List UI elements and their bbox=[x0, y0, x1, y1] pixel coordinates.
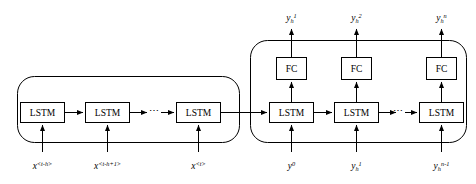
decoder-fc-label-1: FC bbox=[286, 64, 298, 74]
decoder-input-superscript-3: n-1 bbox=[441, 160, 449, 167]
decoder-fc-label-2: FC bbox=[351, 64, 363, 74]
decoder-input-label-1: y0 bbox=[288, 161, 295, 172]
encoder-input-superscript-3: <t> bbox=[195, 160, 205, 167]
decoder-ellipsis: ⋯ bbox=[393, 107, 404, 117]
decoder-lstm-label-2: LSTM bbox=[344, 108, 370, 118]
decoder-output-label-2: yh2 bbox=[351, 13, 362, 24]
decoder-input-label-3: yhn-1 bbox=[434, 161, 450, 172]
decoder-input-superscript-1: 0 bbox=[292, 160, 295, 167]
encoder-lstm-label-1: LSTM bbox=[30, 108, 56, 118]
decoder-container bbox=[251, 41, 467, 143]
encoder-input-superscript-2: <t-h+1> bbox=[98, 160, 121, 167]
diagram-canvas: LSTM LSTM LSTM LSTM LSTM LSTM FC FC FC bbox=[0, 0, 476, 184]
decoder-output-label-1: yh1 bbox=[286, 13, 297, 24]
decoder-fc-label-3: FC bbox=[436, 64, 448, 74]
encoder-lstm-label-3: LSTM bbox=[186, 108, 212, 118]
decoder-output-superscript-2: 2 bbox=[359, 12, 362, 19]
encoder-input-label-2: x<t-h+1> bbox=[94, 161, 121, 172]
decoder-input-label-2: yh1 bbox=[351, 161, 362, 172]
decoder-lstm-label-1: LSTM bbox=[279, 108, 305, 118]
decoder-output-superscript-1: 1 bbox=[294, 12, 297, 19]
decoder-input-superscript-2: 1 bbox=[359, 160, 362, 167]
encoder-ellipsis: ⋯ bbox=[149, 107, 160, 117]
decoder-output-superscript-3: n bbox=[444, 12, 447, 19]
decoder-output-label-3: yhn bbox=[436, 13, 447, 24]
lstm-encoder-decoder-diagram: LSTM LSTM LSTM LSTM LSTM LSTM FC FC FC bbox=[0, 0, 476, 184]
decoder-lstm-label-3: LSTM bbox=[429, 108, 455, 118]
encoder-input-label-1: x<t-h> bbox=[33, 161, 53, 172]
encoder-lstm-label-2: LSTM bbox=[95, 108, 121, 118]
encoder-input-label-3: x<t> bbox=[191, 161, 205, 172]
encoder-input-superscript-1: <t-h> bbox=[37, 160, 53, 167]
